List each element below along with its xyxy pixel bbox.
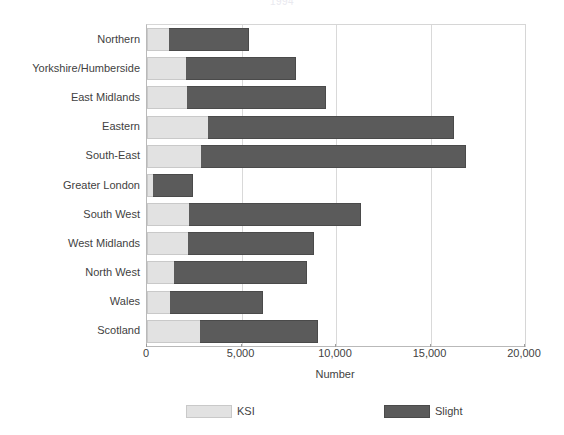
bar-segment-slight[interactable] <box>186 57 296 80</box>
bar-row <box>147 171 525 200</box>
bar-segment-slight[interactable] <box>189 203 361 226</box>
bar-segment-ksi[interactable] <box>147 116 208 139</box>
y-axis-tick-label: Yorkshire/Humberside <box>2 62 140 74</box>
bar-row <box>147 288 525 317</box>
legend-label: KSI <box>237 405 255 417</box>
bar-row <box>147 229 525 258</box>
y-axis-labels: NorthernYorkshire/HumbersideEast Midland… <box>0 24 140 345</box>
y-axis-tick-label: North West <box>2 266 140 278</box>
plot-area <box>146 24 526 347</box>
legend-item-slight[interactable]: Slight <box>384 403 463 419</box>
y-axis-tick-label: West Midlands <box>2 237 140 249</box>
bar-row <box>147 83 525 112</box>
legend-swatch-ksi <box>186 405 232 418</box>
x-axis-tick-label: 0 <box>143 347 149 360</box>
stacked-bar[interactable] <box>147 145 466 168</box>
bar-segment-ksi[interactable] <box>147 291 170 314</box>
y-axis-tick-label: Wales <box>2 295 140 307</box>
bar-row <box>147 113 525 142</box>
bar-row <box>147 25 525 54</box>
stacked-bar[interactable] <box>147 320 318 343</box>
bar-segment-ksi[interactable] <box>147 28 169 51</box>
stacked-bar[interactable] <box>147 116 454 139</box>
y-axis-tick-label: Greater London <box>2 179 140 191</box>
y-axis-tick-label: Scotland <box>2 324 140 336</box>
bar-segment-slight[interactable] <box>188 232 314 255</box>
stacked-bar[interactable] <box>147 291 263 314</box>
x-axis-tick-label: 15,000 <box>413 347 447 360</box>
stacked-bar[interactable] <box>147 203 361 226</box>
bar-segment-slight[interactable] <box>170 291 263 314</box>
bar-segment-slight[interactable] <box>187 86 326 109</box>
y-axis-tick-label: East Midlands <box>2 91 140 103</box>
bar-row <box>147 200 525 229</box>
bar-segment-slight[interactable] <box>201 145 466 168</box>
stacked-bar[interactable] <box>147 28 249 51</box>
bar-segment-slight[interactable] <box>200 320 318 343</box>
y-axis-tick-label: Northern <box>2 33 140 45</box>
bar-segment-ksi[interactable] <box>147 232 188 255</box>
bar-row <box>147 142 525 171</box>
bar-segment-ksi[interactable] <box>147 145 201 168</box>
bar-segment-ksi[interactable] <box>147 261 174 284</box>
stacked-bar[interactable] <box>147 261 307 284</box>
x-axis-tick-label: 5,000 <box>227 347 255 360</box>
bar-row <box>147 54 525 83</box>
legend-swatch-slight <box>384 405 430 418</box>
stacked-bar[interactable] <box>147 86 326 109</box>
bar-row <box>147 258 525 287</box>
stacked-bar-chart: 1994 NorthernYorkshire/HumbersideEast Mi… <box>0 0 564 435</box>
bar-segment-slight[interactable] <box>153 174 193 197</box>
y-axis-tick-label: South West <box>2 208 140 220</box>
x-axis-tick-label: 20,000 <box>507 347 541 360</box>
chart-legend: KSISlight <box>146 403 524 421</box>
bar-segment-slight[interactable] <box>174 261 307 284</box>
legend-item-ksi[interactable]: KSI <box>186 403 255 419</box>
bar-segment-slight[interactable] <box>169 28 249 51</box>
bar-segment-ksi[interactable] <box>147 203 189 226</box>
x-axis-ticks: 05,00010,00015,00020,000 <box>0 347 564 363</box>
x-axis-tick-label: 10,000 <box>318 347 352 360</box>
bar-segment-ksi[interactable] <box>147 320 200 343</box>
legend-label: Slight <box>435 405 463 417</box>
y-axis-tick-label: South-East <box>2 149 140 161</box>
bar-row <box>147 317 525 346</box>
stacked-bar[interactable] <box>147 232 314 255</box>
stacked-bar[interactable] <box>147 57 296 80</box>
bar-segment-slight[interactable] <box>208 116 454 139</box>
page-title: 1994 <box>0 0 564 5</box>
bar-segment-ksi[interactable] <box>147 86 187 109</box>
x-axis-title: Number <box>146 368 524 380</box>
bar-segment-ksi[interactable] <box>147 57 186 80</box>
y-axis-tick-label: Eastern <box>2 120 140 132</box>
stacked-bar[interactable] <box>147 174 193 197</box>
